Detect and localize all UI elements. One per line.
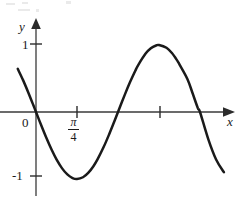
figure-container: y x 0 1 -1 π 4 [0, 0, 242, 200]
origin-label: 0 [22, 116, 29, 129]
x-axis-label: x [227, 115, 233, 128]
x-tick-label-pi-over-four: π 4 [68, 116, 79, 143]
fraction-denominator: 4 [71, 130, 77, 143]
plot-canvas [0, 0, 242, 200]
y-tick-label-negative-one: -1 [12, 169, 23, 182]
y-axis-label: y [19, 20, 25, 33]
y-tick-label-one: 1 [22, 38, 29, 51]
y-axis-arrow-icon [31, 18, 41, 29]
fraction-numerator: π [69, 116, 77, 129]
